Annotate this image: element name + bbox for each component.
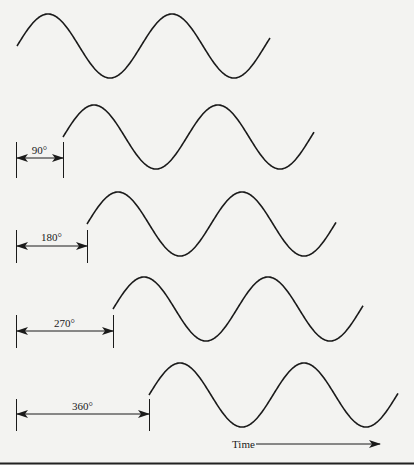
sine-wave-3 <box>113 277 363 341</box>
sine-wave-2 <box>87 192 336 256</box>
phase-label: 270° <box>54 317 75 329</box>
time-axis: Time <box>232 438 380 450</box>
sine-wave-0 <box>17 14 270 78</box>
phase-label: 90° <box>32 144 47 156</box>
diagram-canvas: 90°180°270°360° Time <box>0 0 414 465</box>
phase-label: 180° <box>41 231 62 243</box>
sine-wave-4 <box>149 363 398 427</box>
phase-marker-0: 90° <box>17 142 64 178</box>
phase-markers-group: 90°180°270°360° <box>17 142 150 431</box>
sine-wave-1 <box>63 105 314 169</box>
phase-shift-diagram: 90°180°270°360° Time <box>0 0 414 465</box>
phase-label: 360° <box>72 400 93 412</box>
time-axis-label: Time <box>232 438 255 450</box>
waves-group <box>17 14 398 427</box>
phase-marker-2: 270° <box>17 315 114 348</box>
phase-marker-1: 180° <box>17 230 88 263</box>
phase-marker-3: 360° <box>17 399 150 431</box>
